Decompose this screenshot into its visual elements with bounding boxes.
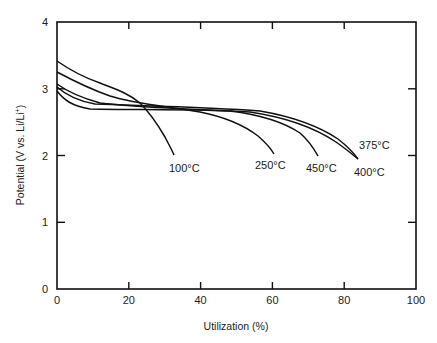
y-axis-title: Potential (V vs. Li/Li+) bbox=[14, 105, 26, 205]
label-450C: 450°C bbox=[306, 162, 337, 174]
x-tick-labels: 0 20 40 60 80 100 bbox=[54, 294, 425, 306]
svg-text:20: 20 bbox=[123, 294, 135, 306]
curve-450C bbox=[57, 84, 318, 156]
svg-text:3: 3 bbox=[42, 83, 48, 95]
label-100C: 100°C bbox=[169, 162, 200, 174]
label-250C: 250°C bbox=[255, 159, 286, 171]
svg-text:2: 2 bbox=[42, 150, 48, 162]
x-ticks-bottom bbox=[129, 282, 344, 289]
svg-text:80: 80 bbox=[338, 294, 350, 306]
svg-text:4: 4 bbox=[42, 16, 48, 28]
label-375C: 375°C bbox=[359, 139, 390, 151]
plot-frame bbox=[57, 22, 416, 289]
svg-text:1: 1 bbox=[42, 216, 48, 228]
x-ticks-top bbox=[129, 22, 344, 29]
svg-text:40: 40 bbox=[194, 294, 206, 306]
svg-text:100: 100 bbox=[407, 294, 425, 306]
svg-text:60: 60 bbox=[266, 294, 278, 306]
y-tick-labels: 0 1 2 3 4 bbox=[42, 16, 48, 295]
svg-text:0: 0 bbox=[54, 294, 60, 306]
y-ticks-left bbox=[57, 89, 65, 223]
svg-text:0: 0 bbox=[42, 283, 48, 295]
x-axis-title: Utilization (%) bbox=[204, 320, 269, 332]
y-ticks-right bbox=[408, 89, 416, 223]
curves bbox=[57, 61, 358, 159]
label-400C: 400°C bbox=[354, 166, 385, 178]
discharge-chart: 0 20 40 60 80 100 0 1 2 3 4 Utilization … bbox=[0, 0, 437, 343]
